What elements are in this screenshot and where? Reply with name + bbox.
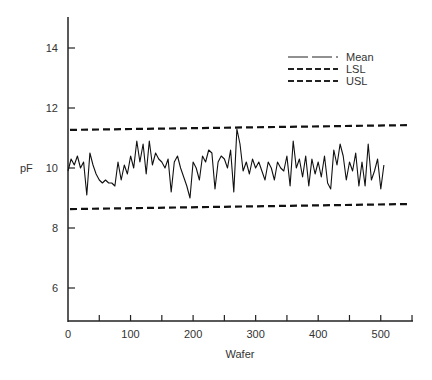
control-chart: 68101214 0100200300400500 pF Wafer MeanL… [0,0,432,380]
y-tick-label: 14 [46,42,58,54]
x-axis-label: Wafer [226,348,255,360]
legend-label-lsl: LSL [346,63,366,75]
legend-label-usl: USL [346,75,367,87]
y-tick-label: 8 [52,222,58,234]
legend: MeanLSLUSL [288,51,374,87]
x-tick-label: 100 [121,328,139,340]
x-tick-label: 300 [246,328,264,340]
y-ticks: 68101214 [46,42,75,294]
x-ticks: 0100200300400500 [65,315,412,340]
x-tick-label: 400 [309,328,327,340]
spec-limit-lines [70,125,410,209]
lsl-line [70,204,410,209]
y-axis-label: pF [20,162,33,174]
x-tick-label: 500 [372,328,390,340]
usl-line [70,125,410,130]
x-tick-label: 0 [65,328,71,340]
mean-series-line [68,129,384,198]
y-tick-label: 6 [52,282,58,294]
y-tick-label: 10 [46,162,58,174]
x-tick-label: 200 [184,328,202,340]
legend-label-mean: Mean [346,51,374,63]
y-tick-label: 12 [46,102,58,114]
